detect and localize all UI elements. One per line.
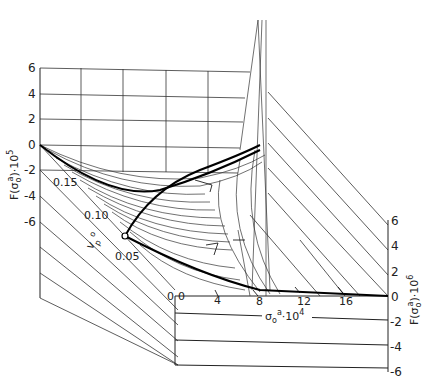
svg-text:-6: -6 (390, 365, 402, 379)
svg-text:-4: -4 (24, 189, 36, 203)
svg-text:16: 16 (339, 295, 353, 308)
svg-text:4: 4 (391, 239, 399, 253)
svg-text:4: 4 (214, 294, 221, 307)
svg-text:F(σoa)·105: F(σoa)·105 (6, 150, 23, 200)
bottom-axis-label: σoa·104 (262, 308, 312, 325)
svg-text:8: 8 (256, 295, 263, 308)
svg-text:-2: -2 (390, 315, 402, 329)
svg-text:4: 4 (28, 87, 36, 101)
front-box (175, 220, 388, 372)
svg-text:0: 0 (178, 290, 185, 303)
svg-text:-4: -4 (390, 340, 402, 354)
left-axis-label: F(σoa)·105 (6, 150, 23, 200)
svg-text:6: 6 (391, 214, 399, 228)
right-axis-ticks: 6 4 2 0 -2 -4 -6 (390, 214, 402, 379)
svg-text:0.10: 0.10 (84, 209, 109, 222)
svg-text:0.05: 0.05 (115, 250, 140, 263)
svg-text:0: 0 (391, 290, 399, 304)
right-axis-label: F(σoa)·106 (406, 275, 423, 325)
left-axis-ticks: 6 4 2 0 -2 -4 -6 (24, 61, 36, 229)
back-wall-grid (40, 68, 250, 173)
svg-text:-2: -2 (24, 163, 36, 177)
svg-text:6: 6 (28, 61, 36, 75)
svg-text:2: 2 (391, 265, 399, 279)
svg-text:12: 12 (297, 295, 311, 308)
depth-axis-ticks: 0.15 0.10 0.05 0 (53, 176, 174, 303)
svg-text:F(σoa)·106: F(σoa)·106 (406, 275, 423, 325)
right-diagonals (250, 92, 388, 296)
surface-diagram: 6 4 2 0 -2 -4 -6 F(σoa)·105 0.15 0.10 0.… (0, 0, 430, 382)
svg-text:0.15: 0.15 (53, 176, 78, 189)
svg-text:0: 0 (167, 290, 174, 303)
svg-text:0: 0 (28, 138, 36, 152)
origin-point (122, 233, 128, 239)
svg-text:-6: -6 (24, 215, 36, 229)
svg-text:σoa·104: σoa·104 (265, 308, 304, 325)
svg-text:2: 2 (28, 112, 36, 126)
